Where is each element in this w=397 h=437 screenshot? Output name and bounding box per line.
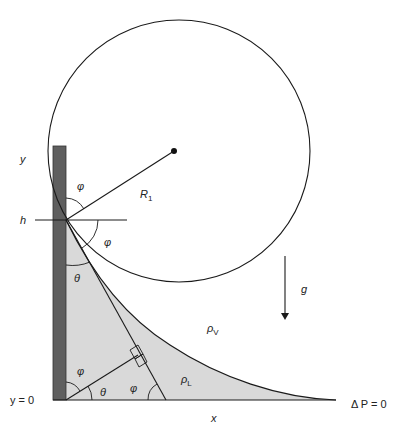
- y-zero-label: y = 0: [10, 394, 34, 406]
- pressure-label: Δ P = 0: [351, 398, 387, 410]
- angle-phi-right-label: φ: [104, 236, 111, 248]
- angle-arc-phi-top: [66, 198, 84, 209]
- gravity-arrow-head: [281, 313, 289, 320]
- radius-label: R1: [140, 188, 153, 203]
- angle-phi-bottom-left-label: φ: [77, 365, 84, 377]
- h-label: h: [20, 214, 26, 226]
- angle-phi-top-label: φ: [77, 180, 84, 192]
- x-axis-label: x: [210, 412, 217, 424]
- gravity-label: g: [301, 283, 308, 295]
- osculating-circle: [48, 20, 310, 282]
- angle-arc-phi-right: [82, 220, 98, 248]
- wall: [53, 146, 66, 400]
- vapor-density-label: ρV: [206, 322, 219, 337]
- angle-phi-bottom-mid-label: φ: [130, 382, 137, 394]
- meniscus-diagram: y h y = 0 x R1 g ρV ρL Δ P = 0 φ φ θ φ θ…: [0, 0, 397, 437]
- angle-theta-upper-label: θ: [74, 272, 80, 284]
- angle-theta-bottom-label: θ: [100, 386, 106, 398]
- y-axis-label: y: [19, 153, 27, 165]
